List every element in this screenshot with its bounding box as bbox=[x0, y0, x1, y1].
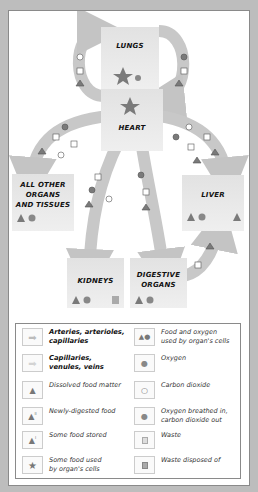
digestive-symbols bbox=[130, 296, 187, 308]
diagram-panel: LUNGS HEART ALL OTHER ORGANS AND TISSUES… bbox=[8, 10, 250, 486]
organ-lungs: LUNGS bbox=[101, 27, 159, 89]
legend: ➡ Arteries, arterioles,capillaries ➡ Cap… bbox=[15, 323, 241, 479]
legend-breathed: ● Oxygen breathed in,carbon dioxide out bbox=[134, 407, 228, 425]
organ-kidneys: KIDNEYS bbox=[67, 258, 124, 308]
legend-food-used: ★ Some food usedby organ's cells bbox=[22, 456, 102, 474]
legend-dissolved: ▲ Dissolved food matter bbox=[22, 381, 121, 399]
legend-capillaries: ➡ Capillaries,venules, veins bbox=[22, 354, 104, 372]
triangle-ii-icon: ▲II bbox=[22, 407, 43, 425]
liver-symbols bbox=[182, 213, 244, 225]
legend-oxygen: ● Oxygen bbox=[134, 354, 186, 372]
organ-digestive: DIGESTIVE ORGANS bbox=[130, 258, 187, 308]
square-light-icon bbox=[134, 431, 155, 449]
square-dark-icon bbox=[134, 456, 155, 474]
legend-waste-disposed: Waste disposed of bbox=[134, 456, 220, 474]
legend-newly-digested: ▲II Newly-digested food bbox=[22, 407, 116, 425]
star-icon bbox=[101, 65, 161, 85]
legend-food-oxygen: ▲● Food and oxygenused by organ's cells bbox=[134, 328, 229, 346]
organ-other: ALL OTHER ORGANS AND TISSUES bbox=[12, 174, 74, 231]
kidney-symbols bbox=[67, 296, 124, 308]
legend-stored: ▲I Some food stored bbox=[22, 431, 107, 449]
star-icon: ★ bbox=[22, 456, 43, 474]
legend-arteries: ➡ Arteries, arterioles,capillaries bbox=[22, 328, 124, 346]
legend-waste: Waste bbox=[134, 431, 181, 449]
triangle-icon: ▲ bbox=[22, 381, 43, 399]
arrow-dark-icon: ➡ bbox=[22, 328, 43, 346]
triangle-circle-icon bbox=[17, 214, 47, 224]
circle-open-icon: ○ bbox=[134, 381, 155, 399]
legend-co2: ○ Carbon dioxide bbox=[134, 381, 210, 399]
organ-heart: HEART bbox=[101, 89, 163, 151]
circle-dot-icon: ● bbox=[134, 407, 155, 425]
arrow-light-icon: ➡ bbox=[22, 354, 43, 372]
organ-liver: LIVER bbox=[182, 175, 244, 231]
triangle-i-icon: ▲I bbox=[22, 431, 43, 449]
triangle-circle-icon: ▲● bbox=[134, 328, 155, 346]
circle-filled-icon: ● bbox=[134, 354, 155, 372]
star-icon bbox=[101, 95, 161, 117]
